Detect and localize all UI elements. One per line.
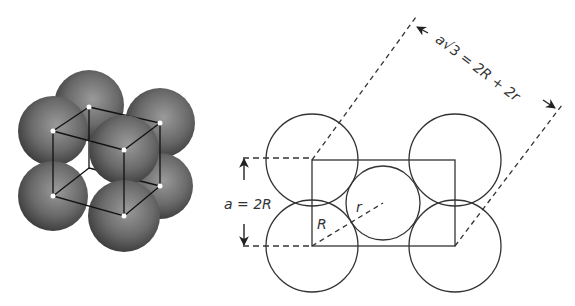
small-radius-label: r	[356, 199, 363, 215]
bcc-unit-cell-model	[18, 70, 195, 252]
bcc-diagram: a = 2R R r a√3 = 2R + 2r	[0, 0, 575, 306]
cell-section-rectangle	[312, 160, 455, 246]
diagonal-label: a√3 = 2R + 2r	[433, 31, 524, 105]
large-radius-label: R	[317, 216, 327, 232]
diagonal-extension-left	[312, 17, 416, 160]
body-diagonal-section	[243, 17, 562, 292]
edge-length-label: a = 2R	[224, 196, 272, 212]
diagonal-extension-right	[455, 105, 562, 246]
